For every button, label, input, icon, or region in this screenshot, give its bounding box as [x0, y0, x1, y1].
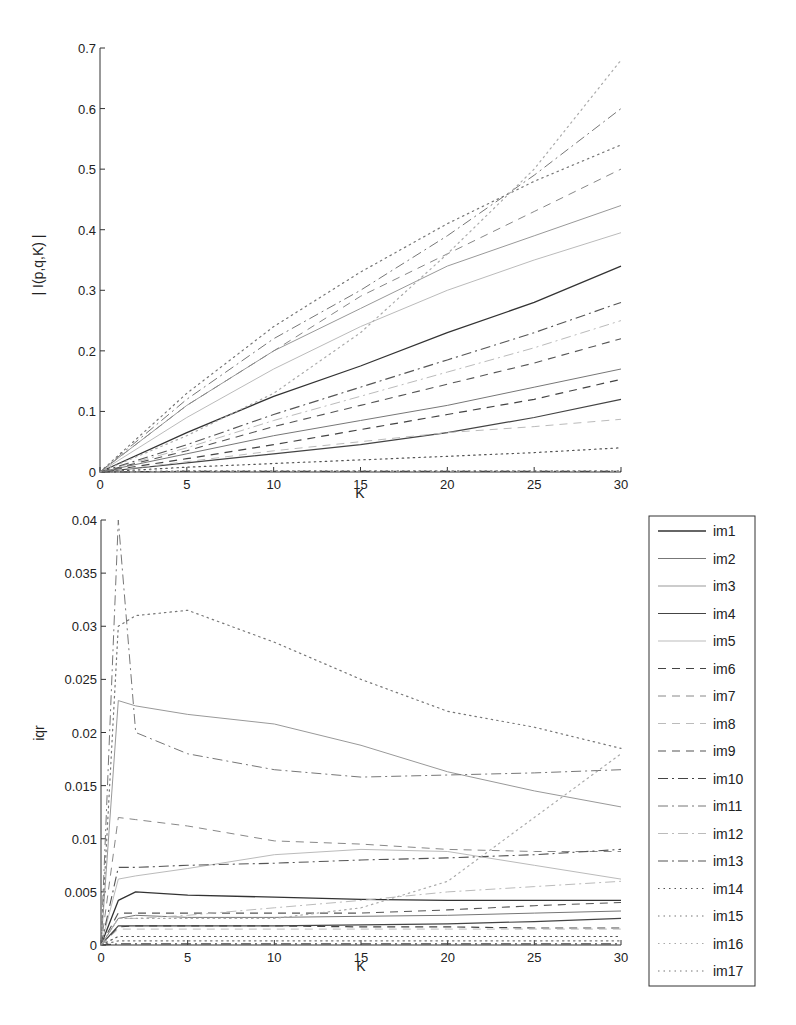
- top-y-axis-label: | I(p,q,K) |: [30, 235, 46, 296]
- bottom-chart-axes: 05101520253000.0050.010.0150.020.0250.03…: [64, 513, 628, 965]
- top-series-im6: [100, 379, 621, 472]
- bottom-series-im9: [101, 903, 621, 946]
- top-y-tick-label: 0.1: [78, 404, 96, 419]
- bottom-y-tick-label: 0.01: [72, 832, 97, 847]
- top-chart-series: [100, 60, 621, 472]
- bottom-x-tick-label: 5: [184, 950, 191, 965]
- bottom-chart: 05101520253000.0050.010.0150.020.0250.03…: [31, 513, 628, 974]
- bottom-x-tick-label: 25: [527, 950, 541, 965]
- legend: im1im2im3im4im5im6im7im8im9im10im11im12i…: [649, 516, 755, 986]
- top-y-tick-label: 0.6: [78, 102, 96, 117]
- top-y-tick-label: 0.4: [78, 223, 96, 238]
- bottom-y-tick-label: 0.015: [64, 779, 97, 794]
- top-series-im9: [100, 339, 621, 472]
- legend-label: im12: [713, 826, 744, 842]
- bottom-series-im13: [101, 849, 621, 945]
- legend-label: im6: [713, 661, 736, 677]
- top-series-im12: [100, 321, 621, 472]
- top-chart-axes: 05101520253000.10.20.30.40.50.60.7: [78, 41, 628, 492]
- top-series-im3: [100, 206, 621, 473]
- top-y-tick-label: 0.5: [78, 162, 96, 177]
- top-x-axis-label: K: [355, 485, 365, 501]
- bottom-y-tick-label: 0.03: [72, 619, 97, 634]
- bottom-x-tick-label: 20: [440, 950, 454, 965]
- bottom-y-tick-label: 0.005: [64, 885, 97, 900]
- legend-label: im14: [713, 881, 744, 897]
- bottom-x-tick-label: 10: [267, 950, 281, 965]
- top-y-tick-label: 0: [89, 465, 96, 480]
- bottom-series-im11: [101, 520, 621, 945]
- legend-label: im4: [713, 606, 736, 622]
- legend-label: im16: [713, 936, 744, 952]
- legend-label: im11: [713, 798, 743, 814]
- top-series-im7: [100, 169, 621, 472]
- bottom-series-im1: [101, 892, 621, 945]
- top-series-im11: [100, 109, 621, 472]
- top-x-tick-label: 30: [614, 477, 628, 492]
- bottom-chart-series: [101, 520, 621, 945]
- bottom-y-tick-label: 0.04: [72, 513, 97, 528]
- top-y-tick-label: 0.7: [78, 41, 96, 56]
- top-series-im2: [100, 369, 621, 472]
- bottom-y-axis-label: iqr: [31, 725, 47, 741]
- legend-label: im17: [713, 963, 744, 979]
- top-y-tick-label: 0.2: [78, 344, 96, 359]
- bottom-x-axis-label: K: [356, 958, 366, 974]
- top-y-tick-label: 0.3: [78, 283, 96, 298]
- legend-label: im15: [713, 908, 744, 924]
- legend-label: im9: [713, 743, 736, 759]
- figure: 05101520253000.10.20.30.40.50.60.7 K | I…: [0, 0, 796, 1025]
- top-series-im1: [100, 266, 621, 472]
- bottom-y-tick-label: 0.02: [72, 726, 97, 741]
- top-series-im16: [100, 60, 621, 472]
- top-x-tick-label: 20: [440, 477, 454, 492]
- bottom-y-tick-label: 0.035: [64, 566, 97, 581]
- top-chart: 05101520253000.10.20.30.40.50.60.7 K | I…: [30, 41, 628, 501]
- legend-label: im5: [713, 633, 736, 649]
- bottom-y-tick-label: 0: [90, 938, 97, 953]
- top-x-tick-label: 0: [96, 477, 103, 492]
- legend-label: im1: [713, 523, 736, 539]
- top-x-tick-label: 5: [183, 477, 190, 492]
- legend-label: im8: [713, 716, 736, 732]
- top-x-tick-label: 10: [266, 477, 280, 492]
- legend-label: im7: [713, 688, 736, 704]
- top-series-im13: [100, 302, 621, 472]
- bottom-x-tick-label: 0: [97, 950, 104, 965]
- top-series-im4: [100, 399, 621, 472]
- legend-label: im10: [713, 771, 744, 787]
- bottom-series-im5: [101, 849, 621, 945]
- legend-label: im3: [713, 578, 736, 594]
- bottom-y-tick-label: 0.025: [64, 672, 97, 687]
- legend-label: im2: [713, 551, 736, 567]
- top-x-tick-label: 25: [527, 477, 541, 492]
- bottom-x-tick-label: 30: [614, 950, 628, 965]
- legend-label: im13: [713, 853, 744, 869]
